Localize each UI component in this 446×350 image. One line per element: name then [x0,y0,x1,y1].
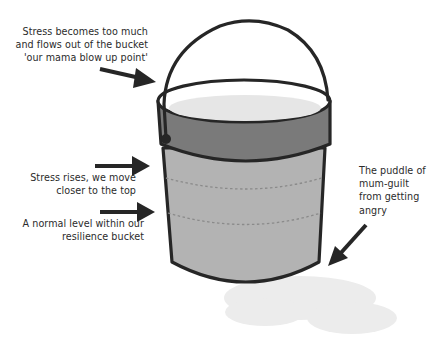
water-surface [169,95,321,121]
label-overflow-line2: and flows out of the bucket [2,38,148,51]
puddle [224,276,397,334]
label-overflow-line3: 'our mama blow up point' [2,51,148,64]
arrow-puddle [328,225,366,266]
label-overflow: Stress becomes too much and flows out of… [2,25,148,65]
label-normal: A normal level within our resilience buc… [0,217,144,243]
label-puddle: The puddle of mum-guilt from getting ang… [359,164,446,217]
label-normal-line2: resilience bucket [0,230,144,243]
arrow-overflow [100,68,156,88]
label-rising-line2: closer to the top [2,184,136,197]
label-puddle-line3: from getting [359,190,446,203]
handle-rivet [161,134,171,144]
label-rising: Stress rises, we move closer to the top [2,171,136,197]
label-rising-line1: Stress rises, we move [2,171,136,184]
bucket-body [163,148,325,282]
label-puddle-line4: angry [359,204,446,217]
label-puddle-line1: The puddle of [359,164,446,177]
label-normal-line1: A normal level within our [0,217,144,230]
label-overflow-line1: Stress becomes too much [2,25,148,38]
label-puddle-line2: mum-guilt [359,177,446,190]
